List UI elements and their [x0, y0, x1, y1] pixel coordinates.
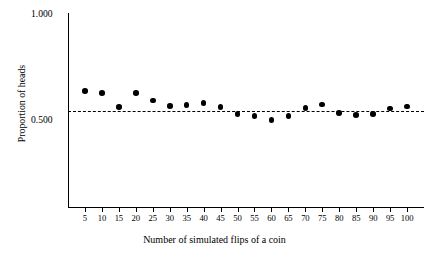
data-point	[201, 100, 207, 106]
x-axis-line	[68, 207, 424, 208]
data-point	[319, 102, 325, 108]
chart-figure: 1.000 0.500 Proportion of heads 51015202…	[0, 0, 429, 261]
data-point	[167, 103, 173, 109]
y-axis-title: Proportion of heads	[16, 29, 27, 179]
data-point	[99, 90, 105, 96]
data-point	[218, 104, 224, 110]
data-point	[235, 111, 241, 117]
x-axis-tick	[170, 207, 171, 212]
data-point	[116, 104, 122, 110]
x-axis-title: Number of simulated flips of a coin	[0, 234, 429, 245]
x-axis-tick	[390, 207, 391, 212]
x-axis-tick	[322, 207, 323, 212]
x-tick-label: 100	[395, 213, 419, 223]
x-axis-tick	[254, 207, 255, 212]
data-point	[269, 117, 275, 123]
x-axis-tick	[204, 207, 205, 212]
x-axis-tick	[288, 207, 289, 212]
x-axis-tick	[221, 207, 222, 212]
x-axis-tick	[356, 207, 357, 212]
data-point	[303, 105, 309, 111]
x-axis-tick	[373, 207, 374, 212]
data-point	[184, 102, 190, 108]
x-axis-tick	[305, 207, 306, 212]
x-axis-tick	[271, 207, 272, 212]
data-point	[353, 112, 359, 118]
data-point	[370, 111, 376, 117]
data-point	[404, 104, 410, 110]
x-axis-tick	[153, 207, 154, 212]
x-axis-tick	[238, 207, 239, 212]
data-point	[286, 113, 292, 119]
x-axis-tick	[187, 207, 188, 212]
data-point	[336, 110, 342, 116]
x-axis-tick	[85, 207, 86, 212]
data-point	[82, 88, 88, 94]
x-axis-tick	[136, 207, 137, 212]
x-axis-tick	[339, 207, 340, 212]
data-point	[150, 98, 156, 104]
data-point	[252, 113, 258, 119]
x-axis-tick	[119, 207, 120, 212]
x-axis-tick	[407, 207, 408, 212]
data-point	[133, 90, 139, 96]
plot-area	[68, 14, 424, 207]
x-axis-tick	[102, 207, 103, 212]
